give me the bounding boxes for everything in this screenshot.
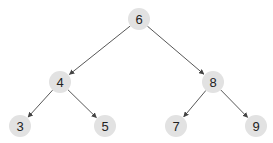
tree-node-5: 5: [94, 115, 116, 137]
tree-node-9: 9: [245, 115, 267, 137]
edge-4-3: [28, 90, 53, 117]
edge-4-5: [68, 90, 97, 118]
tree-node-4: 4: [49, 71, 71, 93]
edge-8-7: [184, 90, 206, 116]
node-label: 3: [16, 119, 23, 134]
node-label: 5: [101, 119, 108, 134]
edge-6-8: [147, 26, 203, 74]
tree-node-8: 8: [202, 71, 224, 93]
node-label: 9: [252, 119, 259, 134]
node-label: 4: [56, 75, 63, 90]
tree-node-7: 7: [165, 115, 187, 137]
nodes: 6483579: [9, 8, 267, 137]
binary-tree-diagram: 6483579: [0, 0, 273, 143]
edge-8-9: [221, 90, 248, 118]
node-label: 6: [135, 12, 142, 27]
node-label: 7: [172, 119, 179, 134]
node-label: 8: [209, 75, 216, 90]
edge-6-4: [69, 26, 130, 75]
tree-node-6: 6: [128, 8, 150, 30]
tree-node-3: 3: [9, 115, 31, 137]
